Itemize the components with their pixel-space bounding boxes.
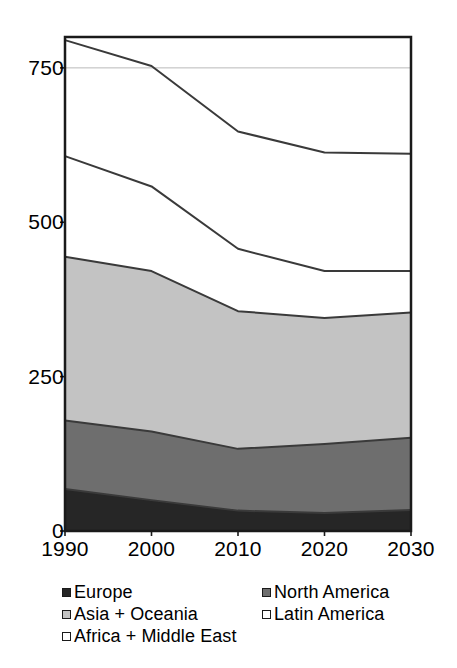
legend-item-label: North America <box>274 583 389 601</box>
legend-item-north-america: North America <box>262 583 389 601</box>
y-axis-tick-label: 750 <box>28 57 64 78</box>
stacked-area-chart-figure: 750 500 250 0 1990 2000 2010 2020 2030 E… <box>0 0 457 668</box>
legend-swatch-icon <box>62 588 71 597</box>
legend-swatch-icon <box>262 610 271 619</box>
legend-item-label: Africa + Middle East <box>74 627 237 645</box>
legend-row: Asia + Oceania Latin America <box>62 605 442 627</box>
x-axis-tick-label: 1990 <box>30 538 100 559</box>
plot-area: 750 500 250 0 1990 2000 2010 2020 2030 <box>0 0 457 545</box>
y-axis-tick-label: 250 <box>28 366 64 387</box>
x-axis-tick-label: 2020 <box>290 538 360 559</box>
legend-row: Africa + Middle East <box>62 627 442 649</box>
legend-item-label: Latin America <box>274 605 384 623</box>
chart-legend: Europe North America Asia + Oceania Lati… <box>62 583 442 649</box>
legend-item-asia-oceania: Asia + Oceania <box>62 605 198 623</box>
chart-svg <box>0 0 457 545</box>
x-axis-tick-label: 2030 <box>376 538 446 559</box>
legend-item-africa-middle-east: Africa + Middle East <box>62 627 237 645</box>
legend-item-latin-america: Latin America <box>262 605 384 623</box>
legend-item-europe: Europe <box>62 583 133 601</box>
legend-swatch-icon <box>262 588 271 597</box>
x-axis-tick-label: 2010 <box>203 538 273 559</box>
x-axis-tick-label: 2000 <box>117 538 187 559</box>
legend-swatch-icon <box>62 632 71 641</box>
legend-row: Europe North America <box>62 583 442 605</box>
series-areas <box>65 40 411 531</box>
legend-swatch-icon <box>62 610 71 619</box>
y-axis-tick-label: 500 <box>28 211 64 232</box>
legend-item-label: Europe <box>74 583 133 601</box>
legend-item-label: Asia + Oceania <box>74 605 198 623</box>
